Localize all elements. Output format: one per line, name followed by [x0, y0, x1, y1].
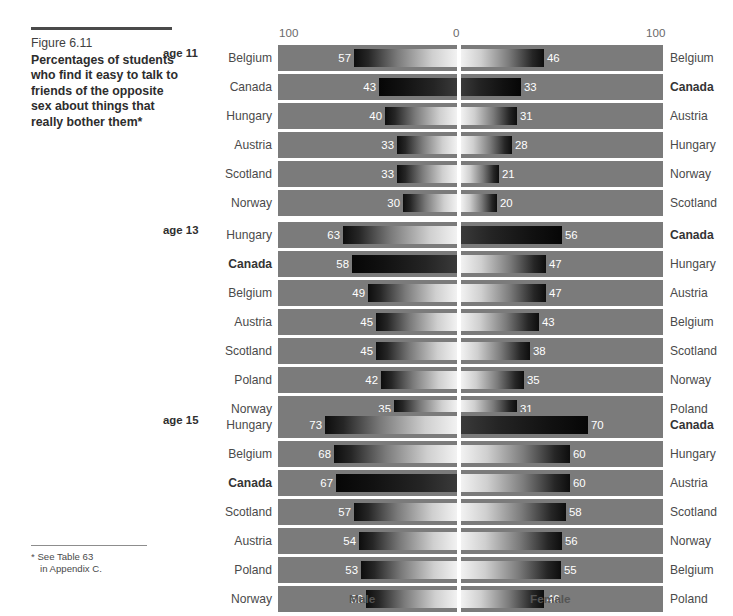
bar-female: [461, 503, 566, 521]
table-row[interactable]: 3328AustriaHungary: [0, 132, 733, 158]
row-label-female-austria: Austria: [670, 107, 733, 125]
table-row[interactable]: 5456AustriaNorway: [0, 528, 733, 554]
value-male: 43: [363, 79, 376, 95]
bar-male: [359, 532, 457, 550]
center-axis-divider: [457, 338, 461, 364]
center-axis-divider: [457, 132, 461, 158]
axis-tick-left: 100: [279, 26, 298, 39]
center-axis-divider: [457, 470, 461, 496]
value-female: 35: [527, 372, 540, 388]
row-label-female-canada: Canada: [670, 226, 733, 244]
bar-female: [461, 165, 499, 183]
row-label-female-canada: Canada: [670, 78, 733, 96]
bar-male: [403, 194, 457, 212]
table-row[interactable]: 6860BelgiumHungary: [0, 441, 733, 467]
center-axis-divider: [457, 251, 461, 277]
table-row[interactable]: 4947BelgiumAustria: [0, 280, 733, 306]
center-axis-divider: [457, 528, 461, 554]
table-row[interactable]: 3321ScotlandNorway: [0, 161, 733, 187]
row-label-male-canada: Canada: [0, 78, 272, 96]
row-label-female-hungary: Hungary: [670, 136, 733, 154]
bar-male: [336, 474, 457, 492]
bar-male: [325, 416, 457, 434]
bar-female: [461, 49, 544, 67]
row-label-female-belgium: Belgium: [670, 49, 733, 67]
row-label-female-hungary: Hungary: [670, 255, 733, 273]
bar-male: [376, 313, 457, 331]
center-axis-divider: [457, 412, 461, 438]
value-female: 60: [573, 446, 586, 462]
table-row[interactable]: 4538ScotlandScotland: [0, 338, 733, 364]
bar-male: [397, 136, 457, 154]
age-rows: 6356HungaryCanada5847CanadaHungary4947Be…: [0, 222, 733, 425]
center-axis-divider: [457, 45, 461, 71]
center-axis-divider: [457, 222, 461, 248]
bar-male: [379, 78, 457, 96]
center-axis-divider: [457, 309, 461, 335]
value-male: 45: [360, 343, 373, 359]
bar-male: [343, 226, 457, 244]
bar-female: [461, 284, 546, 302]
table-row[interactable]: 5746BelgiumBelgium: [0, 45, 733, 71]
value-female: 58: [569, 504, 582, 520]
center-axis-divider: [457, 499, 461, 525]
bar-male: [376, 342, 457, 360]
table-row[interactable]: 4333CanadaCanada: [0, 74, 733, 100]
value-female: 47: [549, 256, 562, 272]
row-label-female-norway: Norway: [670, 165, 733, 183]
bar-female: [461, 226, 562, 244]
row-label-male-austria: Austria: [0, 532, 272, 550]
bar-female: [461, 255, 546, 273]
row-label-male-austria: Austria: [0, 136, 272, 154]
bar-female: [461, 194, 497, 212]
sex-legend: Male Female: [0, 592, 733, 610]
bar-male: [397, 165, 457, 183]
table-row[interactable]: 4543AustriaBelgium: [0, 309, 733, 335]
value-female: 70: [591, 417, 604, 433]
table-row[interactable]: 5847CanadaHungary: [0, 251, 733, 277]
table-row[interactable]: 6356HungaryCanada: [0, 222, 733, 248]
table-row[interactable]: 5758ScotlandScotland: [0, 499, 733, 525]
value-male: 53: [345, 562, 358, 578]
value-male: 67: [320, 475, 333, 491]
row-label-female-norway: Norway: [670, 532, 733, 550]
bar-female: [461, 371, 524, 389]
center-axis-divider: [457, 557, 461, 583]
center-axis-divider: [457, 280, 461, 306]
bar-male: [381, 371, 457, 389]
value-male: 30: [387, 195, 400, 211]
row-label-male-hungary: Hungary: [0, 107, 272, 125]
axis-top: 100 0 100: [0, 26, 733, 45]
value-female: 43: [542, 314, 555, 330]
row-label-female-canada: Canada: [670, 416, 733, 434]
value-female: 33: [524, 79, 537, 95]
table-row[interactable]: 4031HungaryAustria: [0, 103, 733, 129]
value-male: 33: [381, 166, 394, 182]
legend-female: Female: [530, 592, 571, 606]
bar-male: [361, 561, 457, 579]
table-row[interactable]: 4235PolandNorway: [0, 367, 733, 393]
center-axis-divider: [457, 161, 461, 187]
center-axis-divider: [457, 441, 461, 467]
bar-male: [368, 284, 457, 302]
table-row[interactable]: 7370HungaryCanada: [0, 412, 733, 438]
age-rows: 7370HungaryCanada6860BelgiumHungary6760C…: [0, 412, 733, 615]
row-label-female-norway: Norway: [670, 371, 733, 389]
table-row[interactable]: 3020NorwayScotland: [0, 190, 733, 216]
value-male: 58: [336, 256, 349, 272]
row-label-female-scotland: Scotland: [670, 503, 733, 521]
center-axis-divider: [457, 74, 461, 100]
center-axis-divider: [457, 190, 461, 216]
row-label-female-scotland: Scotland: [670, 342, 733, 360]
row-label-female-belgium: Belgium: [670, 313, 733, 331]
value-male: 57: [338, 504, 351, 520]
table-row[interactable]: 6760CanadaAustria: [0, 470, 733, 496]
row-label-male-hungary: Hungary: [0, 226, 272, 244]
table-row[interactable]: 5355PolandBelgium: [0, 557, 733, 583]
row-label-female-belgium: Belgium: [670, 561, 733, 579]
row-label-male-canada: Canada: [0, 474, 272, 492]
bar-female: [461, 78, 521, 96]
row-label-male-scotland: Scotland: [0, 342, 272, 360]
value-female: 20: [500, 195, 513, 211]
row-label-male-scotland: Scotland: [0, 165, 272, 183]
